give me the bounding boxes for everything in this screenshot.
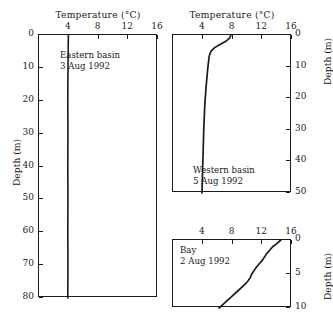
eastern-y-tick-80: 80 <box>12 291 34 301</box>
axis-tick-mark <box>39 133 43 134</box>
axis-tick-mark <box>286 239 290 240</box>
axis-tick-mark <box>286 273 290 274</box>
eastern-y-tick-50: 50 <box>12 192 34 202</box>
western-y-tick-30: 30 <box>295 123 315 133</box>
axis-tick-mark <box>286 192 290 193</box>
bay-annotation-date: 2 Aug 1992 <box>180 256 230 267</box>
eastern-temperature-curve <box>68 35 69 298</box>
axis-tick-mark <box>127 35 128 39</box>
axis-tick-mark <box>286 97 290 98</box>
bay-x-tick-4: 4 <box>192 226 212 236</box>
western-y-tick-50: 50 <box>295 186 315 196</box>
eastern-annotation-name: Eastern basin <box>60 50 120 61</box>
eastern-y-tick-60: 60 <box>12 225 34 235</box>
bay-y-tick-10: 10 <box>295 301 315 311</box>
western-x-tick-8: 8 <box>222 21 242 31</box>
eastern-y-tick-20: 20 <box>12 94 34 104</box>
axis-tick-mark <box>232 240 233 244</box>
axis-tick-mark <box>68 35 69 39</box>
western-y-axis-title: Depth (m) <box>322 38 333 85</box>
bay-y-axis-title: Depth (m) <box>322 253 333 300</box>
western-annotation-date: 5 Aug 1992 <box>193 176 255 187</box>
eastern-x-axis-title: Temperature (°C) <box>38 9 158 20</box>
western-y-tick-0: 0 <box>295 28 315 38</box>
eastern-y-tick-40: 40 <box>12 160 34 170</box>
eastern-y-tick-70: 70 <box>12 258 34 268</box>
western-x-tick-12: 12 <box>251 21 271 31</box>
western-annotation: Western basin 5 Aug 1992 <box>193 165 255 186</box>
axis-tick-mark <box>286 129 290 130</box>
western-x-axis-title: Temperature (°C) <box>172 9 292 20</box>
bay-x-tick-8: 8 <box>222 226 242 236</box>
western-y-tick-10: 10 <box>295 60 315 70</box>
axis-tick-mark <box>39 231 43 232</box>
axis-tick-mark <box>157 35 158 39</box>
western-x-tick-4: 4 <box>192 21 212 31</box>
axis-tick-mark <box>39 198 43 199</box>
axis-tick-mark <box>39 264 43 265</box>
axis-tick-mark <box>261 35 262 39</box>
axis-tick-mark <box>286 307 290 308</box>
axis-tick-mark <box>291 35 292 39</box>
axis-tick-mark <box>202 35 203 39</box>
eastern-x-tick-12: 12 <box>117 21 137 31</box>
eastern-annotation-date: 3 Aug 1992 <box>60 61 120 72</box>
western-y-tick-40: 40 <box>295 154 315 164</box>
eastern-x-tick-8: 8 <box>88 21 108 31</box>
axis-tick-mark <box>286 34 290 35</box>
bay-annotation-name: Bay <box>180 245 230 256</box>
eastern-y-tick-30: 30 <box>12 127 34 137</box>
axis-tick-mark <box>39 67 43 68</box>
axis-tick-mark <box>39 297 43 298</box>
axis-tick-mark <box>286 66 290 67</box>
bay-y-tick-5: 5 <box>295 267 315 277</box>
axis-tick-mark <box>202 240 203 244</box>
axis-tick-mark <box>98 35 99 39</box>
axis-tick-mark <box>39 34 43 35</box>
axis-tick-mark <box>232 35 233 39</box>
bay-y-tick-0: 0 <box>295 233 315 243</box>
eastern-x-tick-16: 16 <box>147 21 167 31</box>
axis-tick-mark <box>286 160 290 161</box>
eastern-annotation: Eastern basin 3 Aug 1992 <box>60 50 120 71</box>
axis-tick-mark <box>291 240 292 244</box>
western-y-tick-20: 20 <box>295 91 315 101</box>
axis-tick-mark <box>261 240 262 244</box>
eastern-y-tick-0: 0 <box>12 28 34 38</box>
eastern-profile-plot <box>39 35 158 298</box>
eastern-x-tick-4: 4 <box>58 21 78 31</box>
eastern-y-tick-10: 10 <box>12 61 34 71</box>
eastern-plot-box <box>38 34 157 297</box>
western-annotation-name: Western basin <box>193 165 255 176</box>
axis-tick-mark <box>39 100 43 101</box>
bay-x-tick-12: 12 <box>251 226 271 236</box>
bay-annotation: Bay 2 Aug 1992 <box>180 245 230 266</box>
axis-tick-mark <box>39 166 43 167</box>
